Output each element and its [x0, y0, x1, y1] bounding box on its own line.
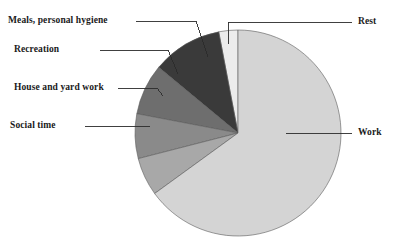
slice-label-meals: Meals, personal hygiene [8, 15, 108, 26]
slice-label-work: Work [358, 127, 382, 138]
slice-label-house: House and yard work [14, 82, 104, 93]
pie-chart: Meals, personal hygiene Recreation House… [0, 0, 405, 250]
slice-label-recreation: Recreation [14, 44, 59, 55]
slice-label-social: Social time [10, 120, 56, 131]
slice-label-rest: Rest [358, 16, 376, 27]
pie-chart-canvas [0, 0, 405, 250]
